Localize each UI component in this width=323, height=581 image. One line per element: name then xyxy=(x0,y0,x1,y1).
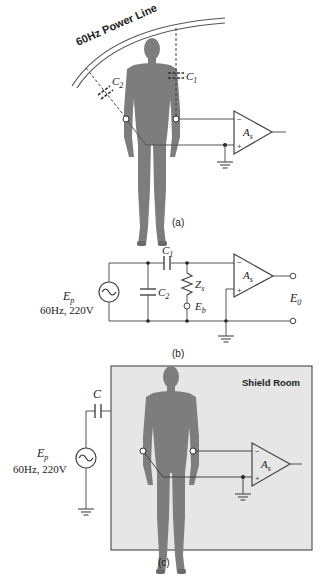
capacitor-c2-b: C2 xyxy=(140,261,169,323)
svg-text:+: + xyxy=(255,474,260,483)
output-terminal-top xyxy=(290,273,296,279)
human-figure xyxy=(124,38,180,246)
ground-icon xyxy=(217,162,233,168)
shield-room-label: Shield Room xyxy=(242,377,300,388)
svg-text:C1: C1 xyxy=(186,70,197,85)
svg-text:Ep: Ep xyxy=(36,446,48,462)
capacitor-c2: C2 xyxy=(98,75,123,99)
electrode-right-c xyxy=(190,448,196,454)
ac-source-c: Ep 60Hz, 220V xyxy=(13,446,96,475)
capacitor-c: C xyxy=(86,387,111,509)
svg-text:60Hz, 220V: 60Hz, 220V xyxy=(40,304,94,316)
panel-c: Shield Room C Ep 60Hz, 220V − xyxy=(13,366,312,574)
caption-b: (b) xyxy=(172,348,184,359)
svg-text:−: − xyxy=(237,115,242,124)
panel-b: Ep 60Hz, 220V C1 C2 Zs xyxy=(40,244,301,359)
svg-text:Ep: Ep xyxy=(62,289,74,305)
electrode-left xyxy=(123,116,129,122)
svg-text:C: C xyxy=(93,387,102,401)
svg-text:60Hz, 220V: 60Hz, 220V xyxy=(13,463,67,475)
svg-text:+: + xyxy=(237,286,242,295)
electrode-right xyxy=(173,116,179,122)
output-label: E0 xyxy=(289,291,301,307)
svg-text:Zs: Zs xyxy=(195,278,204,293)
ground-icon xyxy=(218,336,234,342)
output-terminal-bottom xyxy=(290,318,296,324)
svg-text:Eb: Eb xyxy=(194,300,206,315)
figure: 60Hz Power Line C1 C2 − + As xyxy=(0,0,323,581)
amplifier-b: − + As xyxy=(218,254,290,342)
electrode-left-c xyxy=(140,448,146,454)
panel-a: 60Hz Power Line C1 C2 − + As xyxy=(72,1,286,246)
capacitor-c1-b: C1 xyxy=(162,244,173,270)
svg-text:C2: C2 xyxy=(158,286,169,301)
amplifier-a: − + As xyxy=(234,111,286,154)
svg-text:C2: C2 xyxy=(112,75,123,90)
caption-c: (c) xyxy=(158,557,170,568)
body-node-eb: Eb xyxy=(184,300,206,323)
svg-text:−: − xyxy=(237,258,242,267)
ac-source-b: Ep 60Hz, 220V xyxy=(40,282,119,316)
shield-room xyxy=(111,366,312,550)
impedance-zs: Zs xyxy=(182,261,204,303)
svg-text:+: + xyxy=(237,142,242,151)
caption-a: (a) xyxy=(172,217,184,228)
power-line-label: 60Hz Power Line xyxy=(74,1,159,48)
svg-text:−: − xyxy=(255,447,260,456)
ground-icon xyxy=(78,509,94,515)
